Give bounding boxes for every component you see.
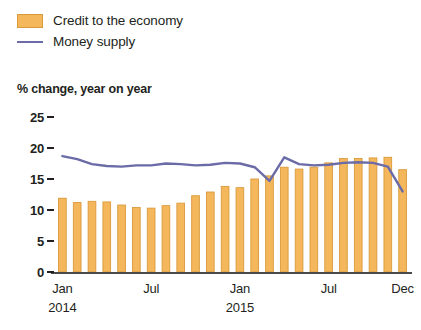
bar — [295, 169, 303, 272]
y-axis-tick-label: 0 — [14, 265, 44, 280]
bar — [133, 208, 141, 272]
bar — [340, 159, 348, 272]
y-axis-tick-mark — [47, 178, 54, 180]
bar — [354, 159, 362, 272]
bar — [369, 158, 377, 272]
bar — [177, 203, 185, 272]
bar — [162, 206, 170, 272]
bar — [266, 176, 274, 272]
y-axis-tick-mark — [47, 147, 54, 149]
x-axis-tick-label: Dec — [391, 281, 414, 296]
bar — [118, 205, 126, 272]
y-axis-tick-label: 20 — [14, 141, 44, 156]
y-axis-tick-label: 5 — [14, 234, 44, 249]
bar-series-credit-to-the-economy — [59, 157, 407, 272]
bar — [310, 167, 318, 272]
bar — [88, 201, 96, 272]
y-axis-tick-label: 10 — [14, 203, 44, 218]
y-axis-tick-mark — [47, 240, 54, 242]
bar — [59, 198, 67, 272]
y-axis-tick-mark — [47, 116, 54, 118]
bar — [325, 163, 333, 272]
line-series-money-supply — [62, 156, 402, 191]
bar — [236, 188, 244, 272]
bar — [147, 208, 155, 272]
bar — [221, 186, 229, 272]
bar — [73, 203, 81, 272]
chart-plot-area: 0510152025 Jan2014JulJan2015JulDec — [0, 0, 421, 330]
x-axis-tick-label: Jan — [52, 281, 72, 296]
bar — [206, 192, 214, 272]
x-axis-year-label: 2015 — [226, 300, 254, 315]
bar — [103, 202, 111, 272]
y-axis-tick-mark — [47, 209, 54, 211]
bar — [251, 179, 259, 272]
y-axis-tick-label: 15 — [14, 172, 44, 187]
x-axis-tick-label: Jul — [143, 281, 159, 296]
bar — [280, 167, 288, 272]
y-axis-tick-mark — [47, 271, 54, 273]
x-axis-tick-label: Jan — [230, 281, 250, 296]
x-axis-tick-label: Jul — [321, 281, 337, 296]
bar — [192, 196, 200, 272]
x-axis-year-label: 2014 — [48, 300, 76, 315]
bar — [384, 157, 392, 272]
y-axis-tick-label: 25 — [14, 110, 44, 125]
